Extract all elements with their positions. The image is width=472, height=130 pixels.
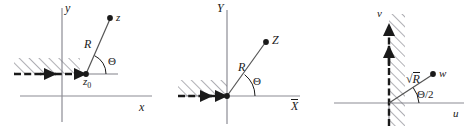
panel-w-plane: v u w √R Θ/2 bbox=[318, 0, 472, 130]
hatched-region bbox=[14, 58, 80, 74]
Y-axis-label: Y bbox=[217, 2, 224, 14]
y-axis-label: y bbox=[65, 2, 70, 14]
radius-label-sqrt-R: √R bbox=[406, 72, 420, 85]
angle-label-theta-half: Θ/2 bbox=[417, 89, 434, 100]
three-panel-conformal-map-figure: y x z R Θ z0 bbox=[0, 0, 472, 130]
radius-label-R: R bbox=[84, 38, 91, 50]
u-axis-label: u bbox=[453, 108, 459, 119]
X-axis-label: X bbox=[291, 99, 298, 112]
point-z0-subscript: 0 bbox=[87, 81, 91, 90]
angle-label-theta: Θ bbox=[253, 76, 261, 87]
x-axis-label: x bbox=[139, 101, 144, 113]
point-Z-label: Z bbox=[272, 34, 279, 46]
angle-label-theta: Θ bbox=[108, 56, 116, 67]
point-z-dot bbox=[107, 15, 113, 21]
point-w-label: w bbox=[439, 68, 446, 79]
radius-label-R: R bbox=[413, 72, 420, 85]
panel-w-plane-graphics bbox=[318, 0, 472, 130]
angle-arc bbox=[95, 56, 106, 74]
point-Z-dot bbox=[263, 39, 269, 45]
panel-z-plane-graphics bbox=[0, 0, 160, 130]
v-axis-label: v bbox=[377, 8, 382, 19]
origin-dot bbox=[224, 93, 230, 99]
hatched-region bbox=[178, 80, 227, 96]
hatched-region bbox=[389, 14, 405, 126]
sqrt-symbol: √ bbox=[406, 72, 413, 86]
radius-label-R: R bbox=[238, 61, 245, 73]
point-z0-label: z0 bbox=[83, 76, 91, 90]
point-w-dot bbox=[430, 71, 436, 77]
radius-vector bbox=[227, 43, 265, 96]
point-z-label: z bbox=[116, 12, 120, 23]
panel-Z-plane: Y X Z R Θ bbox=[160, 0, 318, 130]
panel-z-plane: y x z R Θ z0 bbox=[0, 0, 160, 130]
